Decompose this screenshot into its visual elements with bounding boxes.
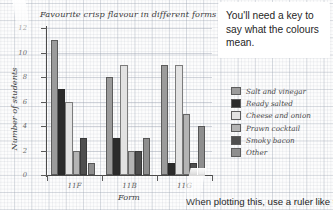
bar <box>161 65 168 175</box>
bar <box>106 77 113 175</box>
legend-label: Salt and vinegar <box>246 87 306 96</box>
chart-title: Favourite crisp flavour in different for… <box>40 9 225 19</box>
legend-item: Prawn cocktail <box>231 122 331 134</box>
legend-item: Other <box>231 146 331 158</box>
x-axis-tick <box>212 175 213 181</box>
bar <box>120 65 127 175</box>
worksheet-page: Favourite crisp flavour in different for… <box>0 0 333 210</box>
y-axis-label: 2 <box>9 147 27 155</box>
bottom-note-text: When plotting this, use a ruler like thi <box>186 196 333 207</box>
x-axis-tick <box>47 175 48 181</box>
x-axis-label: 11B <box>110 181 150 190</box>
legend-swatch-icon <box>231 136 241 145</box>
bar <box>73 151 80 176</box>
x-axis-tick <box>102 175 103 181</box>
legend-swatch-icon <box>231 87 241 96</box>
y-axis-label: 8 <box>9 73 27 81</box>
bar <box>51 40 58 175</box>
legend-item: Cheese and onion <box>231 110 331 122</box>
callout-key-hint: You'll need a key to say what the colour… <box>218 2 330 58</box>
x-axis-title: Form <box>118 192 140 202</box>
x-axis-label: 11F <box>55 181 95 190</box>
y-axis-label: 4 <box>9 122 27 130</box>
legend-swatch-icon <box>231 111 241 120</box>
x-axis-tick <box>157 175 158 181</box>
bar <box>80 138 87 175</box>
gridline <box>47 77 212 78</box>
legend-label: Other <box>246 148 267 157</box>
y-axis-label: 0 <box>9 171 27 179</box>
bar <box>175 65 182 175</box>
bar <box>135 151 142 176</box>
bar <box>88 163 95 175</box>
legend-swatch-icon <box>231 99 241 108</box>
gridline <box>47 28 212 29</box>
gridline <box>47 53 212 54</box>
legend-label: Cheese and onion <box>246 111 311 120</box>
callout-text: You'll need a key to say what the colour… <box>226 9 324 50</box>
y-axis-label: 6 <box>9 98 27 106</box>
legend-swatch-icon <box>231 124 241 133</box>
bar <box>143 138 150 175</box>
legend-swatch-icon <box>231 148 241 157</box>
legend-item: Ready salted <box>231 97 331 109</box>
legend-label: Prawn cocktail <box>246 124 300 133</box>
bar <box>168 163 175 175</box>
bar <box>113 138 120 175</box>
plot-area <box>47 28 212 175</box>
legend-item: Salt and vinegar <box>231 85 331 97</box>
legend-label: Ready salted <box>246 99 293 108</box>
bar <box>183 114 190 175</box>
legend-label: Smoky bacon <box>246 136 295 145</box>
y-axis-label: 10 <box>9 49 27 57</box>
legend-item: Smoky bacon <box>231 134 331 146</box>
bar <box>128 151 135 176</box>
legend: Salt and vinegarReady saltedCheese and o… <box>231 85 331 159</box>
bar <box>58 89 65 175</box>
bar <box>65 102 72 176</box>
